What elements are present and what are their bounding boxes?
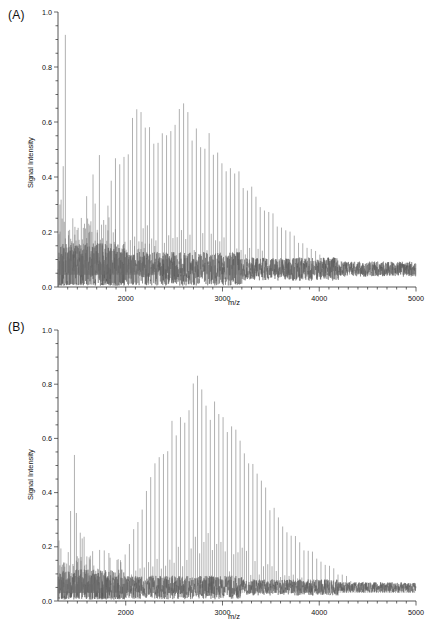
svg-text:0.0: 0.0: [42, 283, 52, 292]
svg-text:4000: 4000: [311, 608, 327, 617]
svg-text:0.4: 0.4: [42, 173, 52, 182]
svg-text:1.0: 1.0: [42, 8, 52, 17]
svg-text:2000: 2000: [118, 294, 134, 303]
panel-a-plot: 0.00.20.40.60.81.02000300040005000: [0, 0, 433, 310]
mass-spectra-figure: (A) Signal Intensity m/z 0.00.20.40.60.8…: [0, 0, 433, 631]
svg-text:0.0: 0.0: [42, 597, 52, 606]
svg-text:0.2: 0.2: [42, 228, 52, 237]
svg-text:0.8: 0.8: [42, 63, 52, 72]
svg-text:2000: 2000: [118, 608, 134, 617]
svg-text:1.0: 1.0: [42, 326, 52, 335]
panel-b-plot: 0.00.20.40.60.81.02000300040005000: [0, 312, 433, 631]
svg-text:3000: 3000: [214, 294, 230, 303]
svg-text:0.8: 0.8: [42, 380, 52, 389]
svg-text:0.4: 0.4: [42, 488, 52, 497]
svg-text:5000: 5000: [408, 294, 424, 303]
svg-text:0.6: 0.6: [42, 118, 52, 127]
svg-text:0.6: 0.6: [42, 434, 52, 443]
panel-a: (A) Signal Intensity m/z 0.00.20.40.60.8…: [0, 0, 433, 310]
svg-text:4000: 4000: [311, 294, 327, 303]
panel-b: (B) Signal Intensity m/z 0.00.20.40.60.8…: [0, 312, 433, 631]
svg-text:0.2: 0.2: [42, 542, 52, 551]
svg-text:5000: 5000: [408, 608, 424, 617]
svg-text:3000: 3000: [214, 608, 230, 617]
